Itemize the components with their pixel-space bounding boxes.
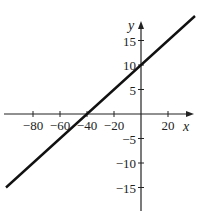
series-line bbox=[6, 16, 195, 188]
series-lines bbox=[6, 16, 195, 188]
x-axis-arrow-icon bbox=[186, 111, 194, 117]
y-tick-label: −15 bbox=[116, 181, 136, 196]
y-tick-label: −5 bbox=[122, 132, 136, 147]
y-axis bbox=[138, 21, 144, 211]
y-tick-label: 5 bbox=[130, 83, 137, 98]
y-axis-label: y bbox=[126, 18, 135, 33]
y-tick-label: 15 bbox=[123, 34, 136, 49]
line-chart: −80−60−40−2020 15105−5−10−15 x y bbox=[0, 0, 209, 211]
y-tick-label: −10 bbox=[116, 156, 136, 171]
x-tick-label: −80 bbox=[23, 118, 43, 133]
x-tick-label: 20 bbox=[162, 118, 175, 133]
y-axis-arrow-icon bbox=[138, 21, 144, 29]
x-tick-label: −20 bbox=[104, 118, 124, 133]
x-axis-label: x bbox=[182, 119, 190, 134]
